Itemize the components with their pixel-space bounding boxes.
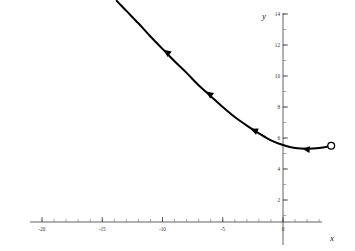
y-tick-label: 6 [277,135,280,141]
y-axis-major-ticks [283,14,288,200]
flow-direction-arrows [162,47,310,153]
plot-canvas: -20-15-10-50 x 1412108642 y [0,0,355,251]
y-tick-label: 4 [277,166,280,172]
y-axis-tick-labels: 1412108642 [275,11,281,203]
x-axis-label: x [329,233,334,243]
y-tick-label: 14 [275,11,281,17]
direction-field-plot: -20-15-10-50 x 1412108642 y [0,0,355,251]
curve-group [117,1,335,153]
y-axis-minor-ticks [283,14,286,216]
y-tick-label: 2 [277,197,280,203]
x-tick-label: -20 [39,226,46,232]
open-circle-endpoint [328,142,335,149]
x-tick-label: -15 [99,226,106,232]
y-tick-label: 8 [277,104,280,110]
x-tick-label: -5 [221,226,226,232]
curve-endpoints [328,142,335,149]
x-axis-tick-labels: -20-15-10-50 [39,226,285,232]
y-tick-label: 12 [275,42,281,48]
y-axis-label: y [261,11,266,21]
x-axis-minor-ticks [42,219,319,222]
solution-curve [117,1,331,149]
x-tick-label: -10 [159,226,166,232]
x-axis-group: -20-15-10-50 x [30,217,334,243]
y-tick-label: 10 [275,73,281,79]
y-axis-group: 1412108642 y [261,11,288,245]
flow-arrow-marker [302,145,310,153]
